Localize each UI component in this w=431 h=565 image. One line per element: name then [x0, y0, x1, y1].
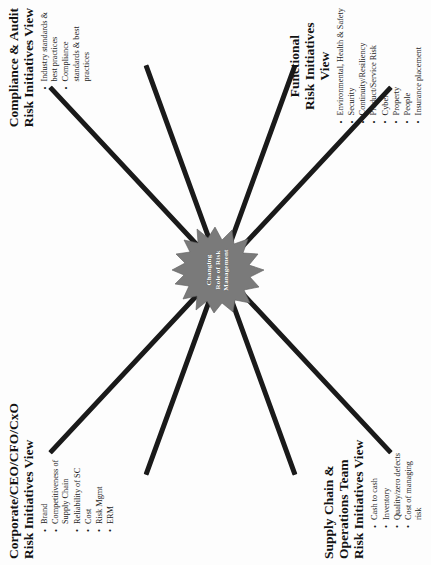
heading-line-1: Supply Chain &	[321, 440, 336, 559]
list-item: Reliability of SC	[73, 403, 83, 533]
list-item: Inventory	[382, 440, 392, 529]
quadrant-corporate-bullets-wrap: Brand Competitiveness of Supply Chain Re…	[40, 403, 116, 559]
list-item: ERM	[106, 403, 116, 533]
list-item: People	[403, 8, 413, 124]
center-label-line1: Changing	[205, 255, 214, 286]
quadrant-compliance-bullets-wrap: Industry standards & best practices Comp…	[36, 8, 93, 127]
quadrant-functional-heading: Functional Risk Initiatives View	[287, 8, 332, 124]
heading-line-1: Corporate/CEO/CFO/CxO	[6, 403, 21, 559]
list-item: Brand	[40, 403, 50, 533]
list-item: Security	[347, 8, 357, 124]
list-item: Cyber	[381, 8, 391, 124]
quadrant-supply-chain-bullets: Cash to cash Inventory Quality/zero defe…	[370, 440, 424, 529]
list-item: Insurance placement	[414, 8, 424, 124]
heading-line-3: Risk Initiatives View	[351, 440, 366, 559]
quadrant-compliance-bullets: Industry standards & best practices Comp…	[40, 12, 93, 91]
list-item: Industry standards & best practices	[40, 12, 60, 91]
quadrant-supply-chain: Supply Chain & Operations Team Risk Init…	[321, 440, 425, 559]
quadrant-supply-chain-bullets-wrap: Cash to cash Inventory Quality/zero defe…	[370, 440, 424, 559]
center-label: Changing Role of Risk Management	[172, 227, 264, 313]
heading-line-2: Risk Initiatives View	[21, 403, 36, 559]
heading-line-2: Risk Initiatives View	[21, 8, 36, 127]
list-item: Cost of managing risk	[404, 440, 424, 529]
list-item: Cash to cash	[370, 440, 380, 529]
center-starburst: Changing Role of Risk Management	[172, 227, 264, 313]
quadrant-corporate: Corporate/CEO/CFO/CxO Risk Initiatives V…	[6, 403, 117, 559]
heading-line-2: Operations Team	[336, 440, 351, 559]
list-item: Cost	[84, 403, 94, 533]
list-item: Environmental, Health & Safety	[336, 8, 346, 124]
list-item: Product/Service Risk	[369, 8, 379, 124]
list-item: Risk Mgmt	[95, 403, 105, 533]
heading-line-1: Functional	[287, 8, 302, 124]
diagram-canvas: Changing Role of Risk Management Corpora…	[0, 0, 431, 565]
quadrant-functional-bullets: Environmental, Health & Safety Security …	[336, 8, 425, 124]
quadrant-corporate-bullets: Brand Competitiveness of Supply Chain Re…	[40, 403, 116, 533]
list-item: Property	[392, 8, 402, 124]
heading-line-1: Compliance & Audit	[6, 8, 21, 127]
center-label-line3: Management	[222, 249, 231, 290]
quadrant-compliance-heading: Compliance & Audit Risk Initiatives View	[6, 8, 36, 127]
quadrant-corporate-heading: Corporate/CEO/CFO/CxO Risk Initiatives V…	[6, 403, 36, 559]
quadrant-functional-bullets-wrap: Environmental, Health & Safety Security …	[332, 8, 425, 124]
quadrant-compliance: Compliance & Audit Risk Initiatives View…	[6, 8, 93, 127]
heading-line-3: View	[317, 8, 332, 124]
list-item: Competitiveness of Supply Chain	[51, 403, 71, 533]
heading-line-2: Risk Initiatives	[302, 8, 317, 124]
quadrant-supply-chain-heading: Supply Chain & Operations Team Risk Init…	[321, 440, 366, 559]
diagram-page: Changing Role of Risk Management Corpora…	[0, 0, 431, 565]
list-item: Compliance standards & best practices	[61, 12, 91, 91]
list-item: Continuity/Resiliency	[358, 8, 368, 124]
quadrant-functional: Functional Risk Initiatives View Environ…	[287, 8, 425, 124]
list-item: Quality/zero defects	[393, 440, 403, 529]
center-label-line2: Role of Risk	[214, 251, 223, 290]
